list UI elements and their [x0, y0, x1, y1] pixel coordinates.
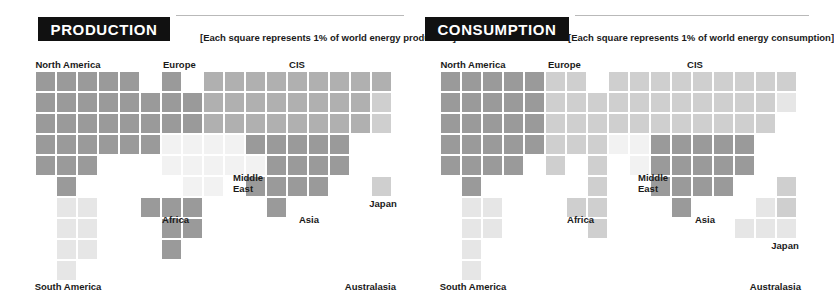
grid-square: [462, 261, 481, 280]
grid-square: [777, 93, 796, 112]
grid-square: [78, 93, 97, 112]
grid-square: [99, 135, 118, 154]
region-label-europe: Europe: [163, 59, 196, 70]
grid-square: [120, 93, 139, 112]
grid-square: [546, 72, 565, 91]
grid-square: [714, 114, 733, 133]
grid-square: [330, 72, 349, 91]
grid-square: [267, 135, 286, 154]
grid-square: [57, 261, 76, 280]
grid-square: [735, 93, 754, 112]
grid-square: [36, 114, 55, 133]
grid-square: [330, 156, 349, 175]
grid-square: [630, 135, 649, 154]
grid-square: [735, 114, 754, 133]
grid-square: [756, 72, 775, 91]
grid-square: [309, 114, 328, 133]
grid-square: [714, 72, 733, 91]
grid-square: [441, 72, 460, 91]
grid-square: [57, 177, 76, 196]
grid-square: [714, 135, 733, 154]
grid-square: [693, 156, 712, 175]
grid-square: [57, 219, 76, 238]
square-grid: [405, 0, 809, 306]
grid-square: [693, 114, 712, 133]
grid-square: [672, 114, 691, 133]
grid-square: [372, 93, 391, 112]
grid-square: [267, 114, 286, 133]
grid-square: [162, 114, 181, 133]
grid-square: [504, 114, 523, 133]
grid-square: [630, 72, 649, 91]
region-label-japan: Japan: [771, 240, 798, 251]
grid-square: [225, 135, 244, 154]
grid-square: [288, 72, 307, 91]
grid-square: [36, 72, 55, 91]
grid-square: [483, 156, 502, 175]
grid-square: [141, 198, 160, 217]
grid-square: [483, 198, 502, 217]
grid-square: [567, 135, 586, 154]
grid-square: [288, 93, 307, 112]
grid-square: [462, 219, 481, 238]
grid-square: [672, 198, 691, 217]
grid-square: [735, 135, 754, 154]
region-label-south-america: South America: [440, 281, 507, 292]
grid-square: [267, 93, 286, 112]
grid-square: [351, 114, 370, 133]
grid-square: [183, 93, 202, 112]
grid-square: [756, 219, 775, 238]
grid-square: [288, 156, 307, 175]
grid-square: [162, 156, 181, 175]
region-label-middle-east: Middle East: [233, 172, 273, 194]
grid-square: [462, 198, 481, 217]
grid-square: [609, 93, 628, 112]
grid-square: [36, 93, 55, 112]
grid-square: [483, 135, 502, 154]
region-label-north-america: North America: [440, 59, 505, 70]
grid-square: [525, 114, 544, 133]
grid-square: [78, 156, 97, 175]
grid-square: [372, 177, 391, 196]
grid-square: [57, 93, 76, 112]
grid-square: [651, 135, 670, 154]
grid-square: [246, 135, 265, 154]
grid-square: [609, 72, 628, 91]
grid-square: [78, 198, 97, 217]
grid-square: [141, 93, 160, 112]
grid-square: [246, 93, 265, 112]
grid-square: [141, 114, 160, 133]
grid-square: [78, 219, 97, 238]
region-label-japan: Japan: [369, 198, 396, 209]
grid-square: [462, 72, 481, 91]
region-label-south-america: South America: [35, 281, 102, 292]
grid-square: [651, 114, 670, 133]
grid-square: [609, 135, 628, 154]
grid-square: [372, 72, 391, 91]
grid-square: [504, 72, 523, 91]
grid-square: [309, 135, 328, 154]
grid-square: [57, 240, 76, 259]
grid-square: [183, 114, 202, 133]
grid-square: [756, 93, 775, 112]
grid-square: [78, 135, 97, 154]
grid-square: [162, 135, 181, 154]
grid-square: [777, 72, 796, 91]
grid-square: [462, 240, 481, 259]
grid-square: [483, 72, 502, 91]
grid-square: [651, 93, 670, 112]
grid-square: [693, 177, 712, 196]
grid-square: [99, 72, 118, 91]
grid-square: [57, 72, 76, 91]
grid-square: [372, 114, 391, 133]
grid-square: [120, 135, 139, 154]
grid-square: [267, 72, 286, 91]
grid-square: [714, 93, 733, 112]
grid-square: [351, 72, 370, 91]
grid-square: [546, 93, 565, 112]
panel-production: PRODUCTION[Each square represents 1% of …: [0, 0, 404, 306]
grid-square: [162, 240, 181, 259]
grid-square: [99, 93, 118, 112]
grid-square: [735, 219, 754, 238]
grid-square: [183, 156, 202, 175]
